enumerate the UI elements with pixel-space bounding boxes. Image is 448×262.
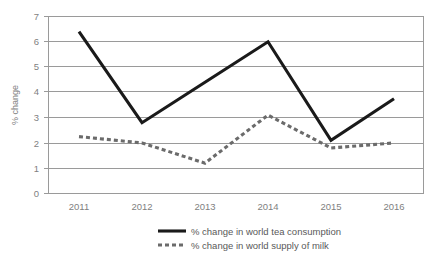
plot-area-background — [48, 16, 424, 194]
x-tick-label-2014: 2014 — [257, 201, 278, 212]
y-tick-label-0: 0 — [34, 188, 39, 199]
y-axis-title: % change — [10, 85, 20, 125]
y-tick-label-4: 4 — [34, 86, 39, 97]
x-tick-label-2016: 2016 — [383, 201, 404, 212]
legend-label-tea: % change in world tea consumption — [191, 226, 341, 237]
y-tick-label-6: 6 — [34, 36, 39, 47]
x-tick-label-2011: 2011 — [69, 201, 89, 212]
line-chart: 7 6 5 4 3 2 1 0 % change 2011 2012 2013 … — [0, 0, 448, 262]
x-tick-label-2015: 2015 — [320, 201, 341, 212]
x-axis-labels: 2011 2012 2013 2014 2015 2016 — [69, 201, 405, 212]
x-tick-label-2012: 2012 — [131, 201, 152, 212]
y-tick-label-5: 5 — [34, 61, 39, 72]
y-tick-label-2: 2 — [34, 138, 39, 149]
legend: % change in world tea consumption % chan… — [158, 226, 341, 251]
legend-label-milk: % change in world supply of milk — [191, 240, 329, 251]
y-axis-labels: 7 6 5 4 3 2 1 0 — [34, 11, 39, 199]
y-tick-label-1: 1 — [34, 163, 39, 174]
y-tick-label-3: 3 — [34, 112, 39, 123]
y-tick-label-7: 7 — [34, 11, 39, 22]
y-axis-tick-marks — [44, 17, 48, 194]
x-tick-label-2013: 2013 — [194, 201, 215, 212]
